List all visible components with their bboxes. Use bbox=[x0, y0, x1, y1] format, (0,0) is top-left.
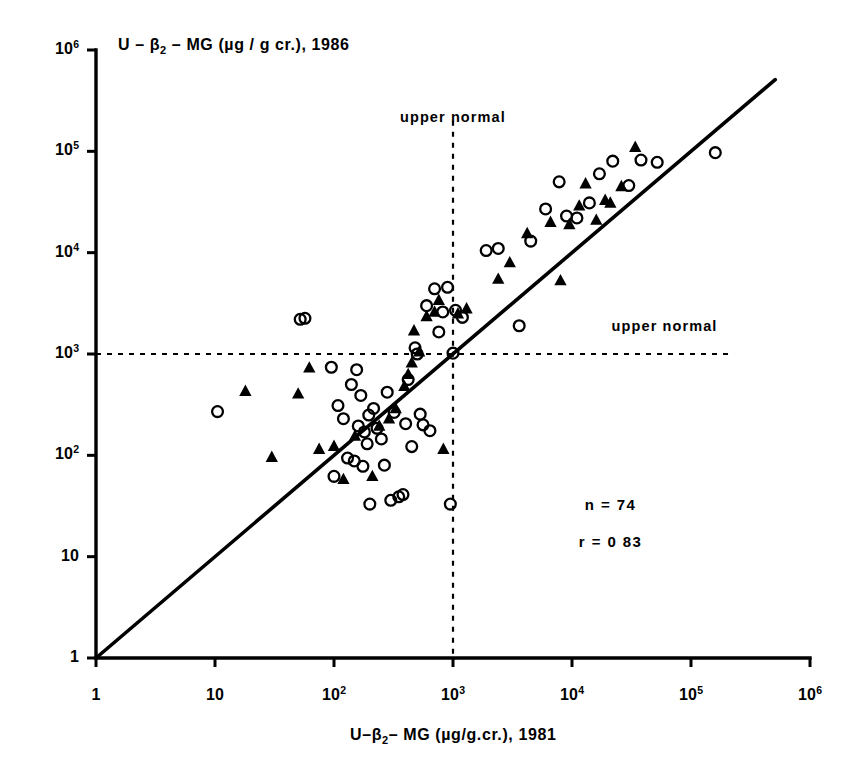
x-tick-label-0: 1 bbox=[92, 686, 101, 704]
data-point-triangle bbox=[366, 470, 378, 481]
data-point-circle bbox=[346, 379, 357, 390]
data-point-circle bbox=[212, 406, 223, 417]
y-tick-label-6: 106 bbox=[55, 40, 79, 58]
series-filled-triangle bbox=[239, 141, 641, 485]
data-point-triangle bbox=[239, 385, 251, 396]
data-point-circle bbox=[493, 243, 504, 254]
data-point-triangle bbox=[266, 451, 278, 462]
data-point-circle bbox=[421, 300, 432, 311]
data-point-circle bbox=[358, 461, 369, 472]
data-point-circle bbox=[594, 168, 605, 179]
data-point-triangle bbox=[460, 302, 472, 313]
data-point-circle bbox=[514, 320, 525, 331]
data-point-circle bbox=[329, 471, 340, 482]
data-point-triangle bbox=[544, 216, 556, 227]
data-point-triangle bbox=[629, 141, 641, 152]
data-point-circle bbox=[338, 413, 349, 424]
annotation-correlation: r = 0 83 bbox=[579, 533, 642, 550]
data-point-circle bbox=[429, 283, 440, 294]
data-point-circle bbox=[326, 362, 337, 373]
scatter-plot-figure: 110102103104105106110102103104105106U – … bbox=[0, 0, 860, 773]
data-point-circle bbox=[540, 204, 551, 215]
upper-normal-vertical-label: upper normal bbox=[400, 109, 506, 125]
x-tick-label-6: 106 bbox=[798, 686, 822, 704]
data-point-triangle bbox=[521, 227, 533, 238]
data-point-triangle bbox=[492, 272, 504, 283]
upper-normal-horizontal-label: upper normal bbox=[612, 318, 718, 334]
data-point-circle bbox=[351, 364, 362, 375]
data-point-triangle bbox=[303, 361, 315, 372]
data-point-triangle bbox=[590, 213, 602, 224]
data-point-circle bbox=[342, 453, 353, 464]
y-tick-label-0: 1 bbox=[70, 648, 79, 666]
annotation-sample-size: n = 74 bbox=[585, 496, 636, 513]
x-axis-title: U–β2– MG (µg/g.cr.), 1981 bbox=[350, 726, 556, 744]
data-point-triangle bbox=[406, 356, 418, 367]
data-point-circle bbox=[355, 390, 366, 401]
data-point-circle bbox=[710, 147, 721, 158]
data-point-circle bbox=[607, 156, 618, 167]
y-tick-label-1: 10 bbox=[61, 547, 79, 565]
data-point-circle bbox=[379, 460, 390, 471]
data-point-circle bbox=[584, 197, 595, 208]
y-axis-title: U – β2 – MG (µg / g cr.), 1986 bbox=[118, 36, 350, 54]
x-tick-label-1: 10 bbox=[206, 686, 224, 704]
y-tick-label-5: 105 bbox=[55, 141, 79, 159]
x-tick-label-5: 105 bbox=[679, 686, 703, 704]
data-point-circle bbox=[636, 155, 647, 166]
y-tick-label-3: 103 bbox=[55, 344, 79, 362]
data-point-circle bbox=[433, 327, 444, 338]
data-point-circle bbox=[572, 213, 583, 224]
data-point-triangle bbox=[408, 324, 420, 335]
data-point-circle bbox=[400, 418, 411, 429]
data-point-circle bbox=[425, 425, 436, 436]
data-point-circle bbox=[442, 282, 453, 293]
identity-line bbox=[96, 80, 775, 658]
data-point-circle bbox=[554, 176, 565, 187]
data-point-circle bbox=[652, 157, 663, 168]
data-point-circle bbox=[481, 245, 492, 256]
data-point-circle bbox=[376, 434, 387, 445]
data-point-circle bbox=[382, 387, 393, 398]
data-point-triangle bbox=[402, 368, 414, 379]
data-point-triangle bbox=[437, 443, 449, 454]
y-tick-label-4: 104 bbox=[55, 243, 79, 261]
data-point-triangle bbox=[579, 177, 591, 188]
data-point-triangle bbox=[554, 274, 566, 285]
data-point-circle bbox=[362, 438, 373, 449]
data-point-circle bbox=[406, 441, 417, 452]
data-point-triangle bbox=[328, 440, 340, 451]
x-tick-label-4: 104 bbox=[560, 686, 584, 704]
x-tick-label-2: 102 bbox=[322, 686, 346, 704]
data-point-circle bbox=[418, 419, 429, 430]
y-tick-label-2: 102 bbox=[55, 445, 79, 463]
data-point-circle bbox=[333, 400, 344, 411]
data-point-circle bbox=[415, 409, 426, 420]
data-point-triangle bbox=[413, 345, 425, 356]
data-point-circle bbox=[445, 499, 456, 510]
data-point-triangle bbox=[504, 256, 516, 267]
data-point-circle bbox=[364, 499, 375, 510]
x-tick-label-3: 103 bbox=[441, 686, 465, 704]
data-point-triangle bbox=[313, 443, 325, 454]
data-point-triangle bbox=[292, 387, 304, 398]
